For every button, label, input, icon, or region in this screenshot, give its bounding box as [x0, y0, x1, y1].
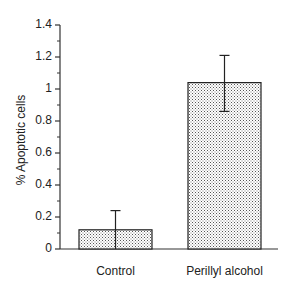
y-tick-label: 1.2 [35, 49, 52, 63]
y-tick-label: 0.8 [35, 113, 52, 127]
bar-chart: 00.20.40.60.811.21.4 ControlPerillyl alc… [0, 0, 291, 287]
y-tick-label: 1 [45, 81, 52, 95]
y-tick-label: 0.6 [35, 145, 52, 159]
y-tick-label: 0 [45, 241, 52, 255]
category-label: Control [96, 264, 135, 278]
y-tick-label: 1.4 [35, 17, 52, 31]
y-tick-label: 0.2 [35, 209, 52, 223]
category-label: Perillyl alcohol [186, 264, 263, 278]
y-axis-label: % Apoptotic cells [14, 95, 28, 186]
y-tick-label: 0.4 [35, 177, 52, 191]
y-axis: 00.20.40.60.811.21.4 [35, 17, 60, 255]
bars [79, 83, 261, 249]
category-labels: ControlPerillyl alcohol [96, 264, 263, 278]
